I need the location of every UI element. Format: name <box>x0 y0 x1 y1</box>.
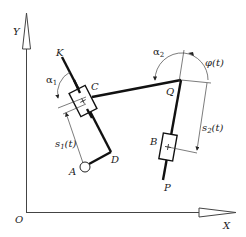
label-phi: φ(t) <box>205 57 224 68</box>
y-axis-label: Y <box>13 26 21 37</box>
mechanism-diagram: Y O X K C Q D A B P α <box>0 0 246 237</box>
x-axis <box>26 208 236 217</box>
y-axis <box>23 13 31 212</box>
label-b: B <box>149 136 157 147</box>
label-s2: s2(t) <box>202 122 224 135</box>
label-k: K <box>55 47 64 58</box>
s2-dimension-line <box>197 83 207 150</box>
label-alpha2: α2 <box>153 46 164 59</box>
label-p: P <box>163 182 171 193</box>
label-s1: s1(t) <box>55 138 77 151</box>
label-c: C <box>91 81 99 92</box>
joint-a <box>80 162 90 172</box>
label-alpha1: α1 <box>46 74 57 87</box>
y-axis-arrow-icon <box>23 13 31 49</box>
label-a: A <box>68 166 76 177</box>
label-d: D <box>110 154 119 165</box>
q-reference-line <box>179 50 184 82</box>
origin-label: O <box>15 214 23 225</box>
x-axis-label: X <box>222 220 231 231</box>
link-da <box>89 152 111 164</box>
q-horizontal-line <box>181 80 211 83</box>
x-axis-arrow-icon <box>199 208 236 217</box>
angle-alpha1-arc <box>57 72 70 98</box>
label-q: Q <box>166 86 174 97</box>
